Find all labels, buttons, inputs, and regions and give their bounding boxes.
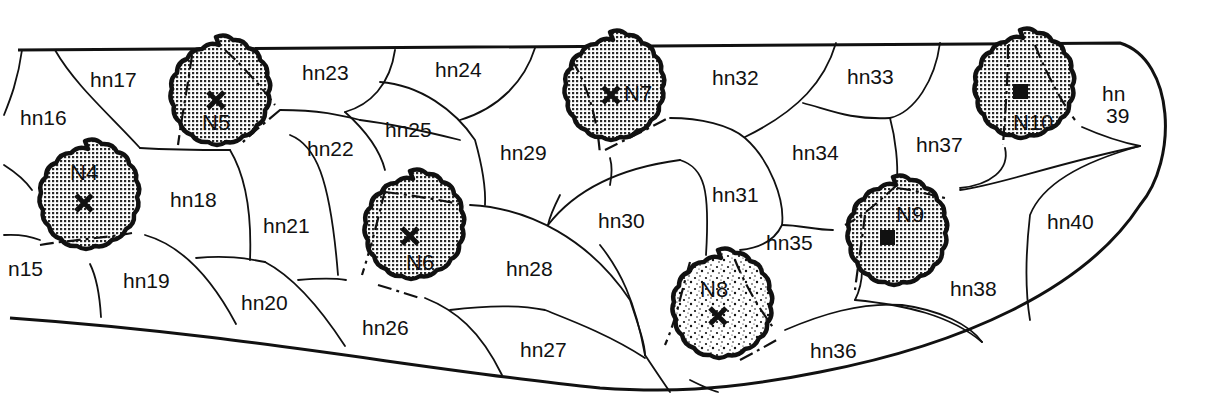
region-label-hn34: hn34 xyxy=(792,141,839,164)
region-label-hn33: hn33 xyxy=(847,65,894,88)
region-label-hn39: hn xyxy=(1102,82,1125,105)
region-label-hn30: hn30 xyxy=(598,209,645,232)
node-N9[interactable]: N9 xyxy=(845,176,947,290)
region-label-hn27: hn27 xyxy=(520,338,567,361)
region-label-hn28: hn28 xyxy=(506,257,553,280)
region-label-hn38: hn38 xyxy=(950,277,997,300)
region-label-hn35: hn35 xyxy=(766,231,813,254)
node-N10[interactable]: N10 xyxy=(974,29,1075,145)
region-label-hn39-line2: 39 xyxy=(1106,104,1129,127)
node-label: N4 xyxy=(70,160,98,185)
region-label-hn36: hn36 xyxy=(810,339,857,362)
node-N4[interactable]: N4 xyxy=(39,140,139,249)
node-N5[interactable]: N5 xyxy=(170,36,280,145)
region-label-hn19: hn19 xyxy=(123,269,170,292)
node-label: N6 xyxy=(406,250,434,275)
region-label-hn16: hn16 xyxy=(20,106,67,129)
region-label-hn40: hn40 xyxy=(1047,210,1094,233)
region-label-hn26: hn26 xyxy=(362,316,409,339)
diagram-canvas: N4 N5 N6 N7 N8 N9 xyxy=(0,0,1206,420)
node-label: N9 xyxy=(896,202,924,227)
region-label-hn18: hn18 xyxy=(170,188,217,211)
region-label-hn21: hn21 xyxy=(263,214,310,237)
node-label: N5 xyxy=(202,110,230,135)
region-label-hn32: hn32 xyxy=(712,66,759,89)
region-label-hn31: hn31 xyxy=(712,183,759,206)
node-N6[interactable]: N6 xyxy=(362,170,465,298)
region-label-hn20: hn20 xyxy=(241,291,288,314)
node-label: N10 xyxy=(1013,110,1053,135)
region-label-hn22: hn22 xyxy=(307,137,354,160)
region-label-hn25: hn25 xyxy=(385,118,432,141)
node-N8[interactable]: N8 xyxy=(665,249,780,360)
node-N7[interactable]: N7 xyxy=(564,31,668,155)
region-label-hn17: hn17 xyxy=(90,68,137,91)
region-label-hn24: hn24 xyxy=(435,58,482,81)
region-label-hn37: hn37 xyxy=(916,133,963,156)
node-label: N7 xyxy=(624,81,652,106)
region-label-hn15: n15 xyxy=(8,257,43,280)
square-marker-icon xyxy=(1013,84,1028,99)
region-label-hn23: hn23 xyxy=(302,61,349,84)
square-marker-icon xyxy=(880,230,895,245)
region-label-hn29: hn29 xyxy=(500,141,547,164)
node-label: N8 xyxy=(700,277,728,302)
